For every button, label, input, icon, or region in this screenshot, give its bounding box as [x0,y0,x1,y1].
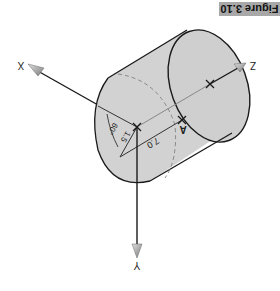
point-a-label: A [179,124,186,135]
z-axis-label: Z [250,60,256,71]
x-axis-label: X [17,60,24,71]
y-arrowhead-icon [132,244,142,258]
x-arrowhead-icon [28,64,44,76]
figure-3-10: X Z Y A 7.0 1.5 60° Figure 3.10 [0,0,280,291]
cylinder [95,19,265,183]
figure-caption: Figure 3.10 [219,2,280,16]
y-axis-label: Y [133,260,140,271]
cylinder-diagram: X Z Y A 7.0 1.5 60° [0,0,280,291]
